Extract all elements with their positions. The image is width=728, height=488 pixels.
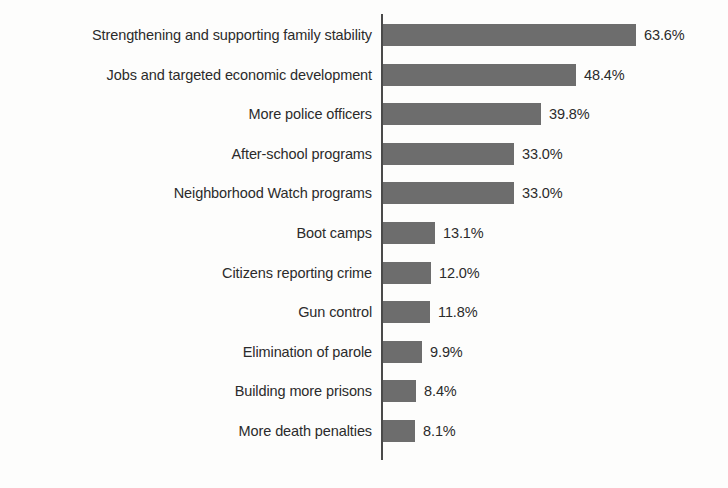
bar [383, 301, 430, 323]
bar-value-label: 11.8% [438, 301, 478, 323]
bar [383, 103, 541, 125]
bar [383, 262, 431, 284]
category-label: Neighborhood Watch programs [10, 182, 372, 204]
bar-value-label: 8.1% [423, 420, 456, 442]
bar-value-label: 39.8% [549, 103, 590, 125]
category-label: Elimination of parole [10, 341, 372, 363]
bar-row: Elimination of parole9.9% [0, 332, 728, 372]
category-label: Boot camps [10, 222, 372, 244]
bar [383, 143, 514, 165]
bar-row: More death penalties8.1% [0, 411, 728, 451]
bar [383, 24, 636, 46]
bar [383, 182, 514, 204]
bar-value-label: 33.0% [522, 143, 563, 165]
bar-value-label: 33.0% [522, 182, 563, 204]
bar-row: Neighborhood Watch programs33.0% [0, 173, 728, 213]
bar-chart: Strengthening and supporting family stab… [0, 0, 728, 488]
bar-row: Building more prisons8.4% [0, 371, 728, 411]
bar [383, 222, 435, 244]
bar-value-label: 13.1% [443, 222, 484, 244]
chart-plot-area: Strengthening and supporting family stab… [0, 0, 728, 488]
category-label: After-school programs [10, 143, 372, 165]
category-label: Gun control [10, 301, 372, 323]
bar-row: Citizens reporting crime12.0% [0, 253, 728, 293]
category-label: More police officers [10, 103, 372, 125]
bar-value-label: 48.4% [584, 64, 625, 86]
category-label: Jobs and targeted economic development [10, 64, 372, 86]
category-label: More death penalties [10, 420, 372, 442]
bar-row: Gun control11.8% [0, 292, 728, 332]
bar-row: More police officers39.8% [0, 94, 728, 134]
bar-value-label: 12.0% [439, 262, 480, 284]
bar-value-label: 63.6% [644, 24, 685, 46]
bar-value-label: 8.4% [424, 380, 457, 402]
category-label: Building more prisons [10, 380, 372, 402]
bar-value-label: 9.9% [430, 341, 463, 363]
bar [383, 380, 416, 402]
bar-row: After-school programs33.0% [0, 134, 728, 174]
bar [383, 341, 422, 363]
bar-row: Boot camps13.1% [0, 213, 728, 253]
category-label: Strengthening and supporting family stab… [10, 24, 372, 46]
bar-row: Jobs and targeted economic development48… [0, 55, 728, 95]
bar [383, 64, 576, 86]
bar-row: Strengthening and supporting family stab… [0, 15, 728, 55]
category-label: Citizens reporting crime [10, 262, 372, 284]
bar [383, 420, 415, 442]
